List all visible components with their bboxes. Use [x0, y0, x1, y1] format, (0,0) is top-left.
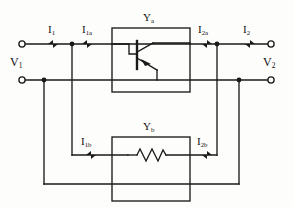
junction-dot-bottom-left — [42, 78, 47, 83]
arrow-i2a — [202, 40, 212, 48]
block-label-yb: Yb — [143, 121, 154, 132]
terminal-right-top[interactable] — [268, 41, 274, 47]
current-label-i2: I2 — [243, 24, 250, 35]
current-label-i1: I1 — [48, 24, 55, 35]
junction-dot-bottom-right — [237, 78, 242, 83]
terminal-right-bottom[interactable] — [268, 77, 274, 83]
current-label-i2b: I2b — [197, 136, 207, 147]
arrow-i1b — [86, 151, 96, 159]
wire-transistor-base-lead — [112, 44, 137, 54]
current-label-i1b: I1b — [81, 136, 91, 147]
junction-dot-top-right — [215, 42, 220, 47]
arrow-i1a — [82, 40, 92, 48]
current-label-i2a: I2a — [198, 24, 208, 35]
junction-dot-top-left — [70, 42, 75, 47]
block-ya-box — [112, 28, 190, 92]
resistor-zigzag — [137, 149, 166, 161]
terminal-left-bottom[interactable] — [19, 77, 25, 83]
arrow-i2b — [202, 151, 212, 159]
circuit-diagram-canvas: Ya Yb I1 I1a I2a I2 I1b I2b V1 V2 — [0, 0, 293, 207]
arrow-i2 — [245, 40, 255, 48]
current-label-i1a: I1a — [82, 24, 92, 35]
block-label-ya: Ya — [143, 12, 154, 23]
terminal-left-top[interactable] — [19, 41, 25, 47]
voltage-label-v1: V1 — [10, 56, 22, 68]
block-yb-box — [112, 137, 190, 201]
voltage-label-v2: V2 — [263, 56, 275, 68]
arrow-i1 — [48, 40, 58, 48]
